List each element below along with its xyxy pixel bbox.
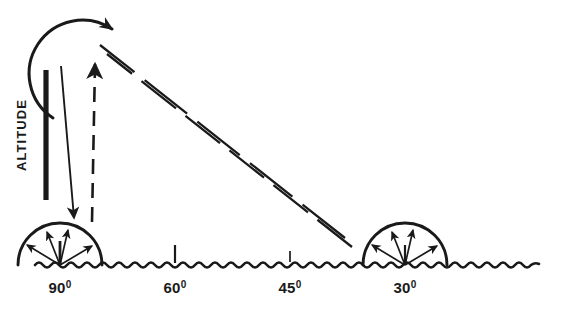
axis-label-30: 300 bbox=[394, 279, 417, 297]
diagram-canvas: 900 600 450 300 bbox=[0, 0, 578, 310]
downward-beam-arrow bbox=[61, 66, 74, 218]
return-ray-lower bbox=[107, 54, 352, 247]
return-ray-pair bbox=[100, 45, 352, 247]
ground-line bbox=[35, 263, 539, 268]
axis-label-45: 450 bbox=[279, 279, 302, 297]
axis-label-60: 600 bbox=[164, 279, 187, 297]
altitude-label: ALTITUDE bbox=[14, 99, 29, 171]
axis-ticks bbox=[60, 241, 405, 265]
axis-tick-labels: 900 600 450 300 bbox=[49, 279, 417, 297]
sweep-arc bbox=[29, 20, 112, 118]
axis-label-90: 900 bbox=[49, 279, 72, 297]
upward-beam-arrow bbox=[92, 64, 95, 222]
return-ray-upper bbox=[100, 45, 345, 238]
altitude-propagation-diagram: 900 600 450 300 bbox=[0, 0, 578, 310]
